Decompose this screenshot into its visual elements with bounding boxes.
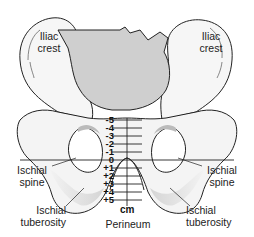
- label-line: Iliac: [34, 30, 64, 42]
- label-line: crest: [34, 42, 64, 54]
- label-line: Ischial: [186, 204, 246, 216]
- label-line: crest: [196, 42, 226, 54]
- label-line: spine: [202, 176, 242, 188]
- label-ischial-spine-right: Ischial spine: [202, 164, 242, 188]
- label-ischial-tuberosity-left: Ischial tuberosity: [10, 204, 66, 228]
- label-line: tuberosity: [186, 216, 246, 228]
- label-unit-cm: cm: [120, 204, 134, 215]
- label-line: Ischial: [202, 164, 242, 176]
- label-line: Ischial: [12, 164, 52, 176]
- label-line: spine: [12, 176, 52, 188]
- label-line: Iliac: [196, 30, 226, 42]
- label-perineum: Perineum: [100, 218, 156, 230]
- label-iliac-crest-left: Iliac crest: [34, 30, 64, 54]
- label-line: Ischial: [10, 204, 66, 216]
- label-ischial-tuberosity-right: Ischial tuberosity: [186, 204, 246, 228]
- station-plus-5: +5: [100, 195, 114, 205]
- label-iliac-crest-right: Iliac crest: [196, 30, 226, 54]
- label-line: tuberosity: [10, 216, 66, 228]
- label-ischial-spine-left: Ischial spine: [12, 164, 52, 188]
